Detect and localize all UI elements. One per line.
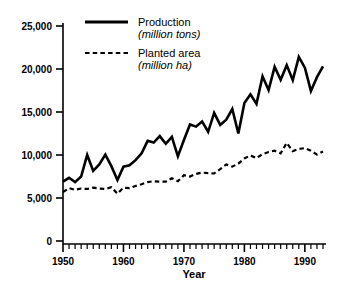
series-line-production xyxy=(63,57,323,182)
y-tick-label: 0 xyxy=(46,236,52,247)
series-line-planted-area xyxy=(63,143,323,194)
y-tick-label: 10,000 xyxy=(21,150,52,161)
chart-container: 05,00010,00015,00020,00025,000 195019601… xyxy=(0,0,348,302)
x-tick-label: 1960 xyxy=(112,256,135,267)
y-axis-tick-labels: 05,00010,00015,00020,00025,000 xyxy=(21,21,52,247)
line-chart: 05,00010,00015,00020,00025,000 195019601… xyxy=(0,0,348,302)
y-tick-label: 25,000 xyxy=(21,21,52,32)
legend-label-planted-area: Planted area xyxy=(138,47,201,59)
y-tick-label: 15,000 xyxy=(21,107,52,118)
legend-label-production: Production xyxy=(138,16,191,28)
chart-legend: Production (million tons) Planted area (… xyxy=(85,16,201,71)
x-axis-ticks xyxy=(63,244,323,252)
legend-sublabel-production: (million tons) xyxy=(138,28,201,40)
x-tick-label: 1950 xyxy=(52,256,75,267)
y-tick-label: 5,000 xyxy=(27,193,52,204)
x-axis-title: Year xyxy=(182,268,206,280)
x-tick-label: 1990 xyxy=(294,256,317,267)
y-tick-label: 20,000 xyxy=(21,64,52,75)
x-tick-label: 1970 xyxy=(173,256,196,267)
x-tick-label: 1980 xyxy=(233,256,256,267)
x-axis-tick-labels: 19501960197019801990 xyxy=(52,256,317,267)
y-axis-ticks xyxy=(56,26,63,241)
legend-sublabel-planted-area: (million ha) xyxy=(138,59,192,71)
